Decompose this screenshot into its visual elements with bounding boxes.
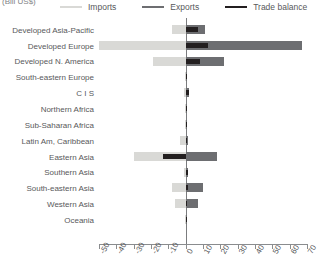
bar-trade-balance bbox=[186, 201, 188, 206]
y-axis-label: Eastern Asia bbox=[49, 154, 94, 162]
bar-trade-balance bbox=[186, 106, 188, 111]
plot-area: Developed Asia-PacificDeveloped EuropeDe… bbox=[0, 22, 317, 244]
y-axis-label: Oceania bbox=[64, 217, 94, 225]
bar-exports bbox=[186, 183, 203, 192]
unit-label: (Bill US$) bbox=[2, 0, 36, 6]
bar-imports bbox=[153, 57, 186, 66]
legend-swatch-exports bbox=[142, 6, 164, 8]
chart-page: (Bill US$) ImportsExportsTrade balance D… bbox=[0, 0, 317, 276]
bar-imports bbox=[172, 25, 186, 34]
bar-row bbox=[99, 25, 307, 34]
y-axis-labels: Developed Asia-PacificDeveloped EuropeDe… bbox=[0, 22, 98, 244]
bars-area bbox=[99, 22, 307, 244]
y-axis-label: Sub-Saharan Africa bbox=[25, 122, 94, 130]
x-axis: -50-40-30-20-10010203040506070 bbox=[99, 244, 307, 276]
x-axis-tick-label: 20 bbox=[219, 243, 231, 255]
legend-swatch-imports bbox=[60, 6, 82, 8]
bar-row bbox=[99, 72, 307, 81]
bar-trade-balance bbox=[186, 138, 188, 143]
legend-label-exports: Exports bbox=[170, 2, 199, 12]
bar-trade-balance bbox=[186, 74, 187, 79]
legend-item-exports: Exports bbox=[142, 2, 199, 12]
y-axis-label: Southern Asia bbox=[44, 169, 94, 177]
y-axis-label: Northern Africa bbox=[41, 106, 94, 114]
bar-trade-balance bbox=[186, 27, 198, 32]
bar-row bbox=[99, 41, 307, 50]
bar-trade-balance bbox=[186, 185, 189, 190]
bar-trade-balance bbox=[186, 43, 209, 48]
bar-row bbox=[99, 104, 307, 113]
bar-row bbox=[99, 199, 307, 208]
y-axis-label: Developed Europe bbox=[28, 43, 94, 51]
bar-row bbox=[99, 57, 307, 66]
bar-exports bbox=[186, 152, 217, 161]
bar-row bbox=[99, 120, 307, 129]
legend-swatch-trade-balance bbox=[225, 6, 247, 8]
x-axis-tick-label: 40 bbox=[254, 243, 266, 255]
bar-row bbox=[99, 136, 307, 145]
y-axis-label: Developed N. America bbox=[14, 58, 94, 66]
bar-row bbox=[99, 168, 307, 177]
x-axis-tick-label: 10 bbox=[202, 243, 214, 255]
bar-imports bbox=[99, 41, 186, 50]
legend-item-imports: Imports bbox=[60, 2, 116, 12]
y-axis-label: Developed Asia-Pacific bbox=[12, 27, 94, 35]
chart-legend: ImportsExportsTrade balance bbox=[60, 2, 307, 12]
zero-line bbox=[186, 18, 187, 248]
y-axis-label: C I S bbox=[76, 90, 94, 98]
y-axis-label: South-eastern Europe bbox=[16, 74, 94, 82]
bar-imports bbox=[175, 199, 185, 208]
legend-label-imports: Imports bbox=[88, 2, 116, 12]
y-axis-label: Latin Am, Caribbean bbox=[22, 138, 95, 146]
y-axis-label: Western Asia bbox=[47, 201, 94, 209]
bar-trade-balance bbox=[186, 59, 200, 64]
bar-row bbox=[99, 183, 307, 192]
bar-trade-balance bbox=[186, 170, 189, 175]
bar-trade-balance bbox=[186, 217, 187, 222]
bar-row bbox=[99, 215, 307, 224]
y-axis-label: South-eastern Asia bbox=[26, 185, 94, 193]
bar-imports bbox=[172, 183, 186, 192]
bar-trade-balance bbox=[186, 122, 188, 127]
x-axis-tick-label: 50 bbox=[271, 243, 283, 255]
x-axis-tick-label: 0 bbox=[185, 247, 195, 255]
bar-exports bbox=[186, 199, 198, 208]
legend-item-trade-balance: Trade balance bbox=[225, 2, 307, 12]
bar-trade-balance bbox=[163, 154, 186, 159]
bar-row bbox=[99, 88, 307, 97]
bar-row bbox=[99, 152, 307, 161]
legend-label-trade-balance: Trade balance bbox=[253, 2, 307, 12]
bar-trade-balance bbox=[186, 90, 189, 95]
